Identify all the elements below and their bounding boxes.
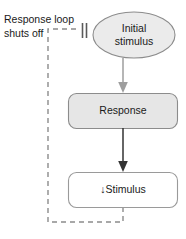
stimulus-box [69, 173, 178, 208]
response-box [69, 94, 178, 129]
feedback-loop-diagram: Initial stimulus Response ↓Stimulus Resp… [0, 0, 186, 239]
initial-stimulus-ellipse [93, 12, 175, 58]
inhibition-bars-icon [83, 23, 87, 38]
response-loop-annotation: Response loop shuts off [4, 13, 74, 40]
response-loop-line1: Response loop [4, 13, 74, 27]
response-loop-line2: shuts off [4, 27, 74, 41]
response-to-stimulus-arrow [118, 128, 128, 172]
initial-to-response-arrow [118, 58, 128, 93]
